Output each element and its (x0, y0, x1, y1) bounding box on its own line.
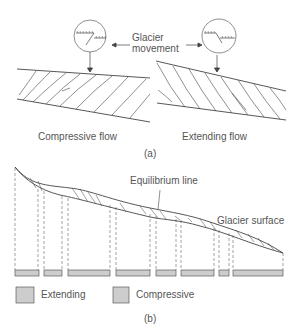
compressive-flow-caption: Compressive flow (38, 132, 117, 142)
legend-compressive-label: Compressive (136, 290, 194, 300)
zone-extending (156, 270, 176, 276)
zone-compressive (116, 270, 150, 276)
part-a-label: (a) (144, 149, 156, 159)
zone-bars (15, 270, 283, 276)
equilibrium-line-label: Equilibrium line (130, 176, 198, 186)
zone-compressive (181, 270, 214, 276)
crevasse-inset-icon (76, 31, 106, 45)
zone-extending (15, 270, 39, 276)
glacier-surface-label: Glacier surface (217, 216, 284, 226)
glacier-movement-label: Glacier movement (132, 32, 179, 54)
zone-extending (219, 270, 229, 276)
legend-extending-swatch (16, 287, 34, 303)
compressive-flow-figure (17, 20, 150, 122)
legend-compressive-swatch (113, 287, 129, 303)
legend-extending-label: Extending (41, 290, 85, 300)
part-b-label: (b) (144, 314, 156, 324)
zone-extending (68, 270, 110, 276)
zone-compressive (233, 270, 283, 276)
movement-label-line2: movement (132, 43, 179, 54)
zone-compressive (44, 270, 62, 276)
crevasse-inset-icon (204, 31, 235, 43)
movement-label-line1: Glacier (132, 32, 179, 43)
extending-flow-caption: Extending flow (182, 132, 247, 142)
